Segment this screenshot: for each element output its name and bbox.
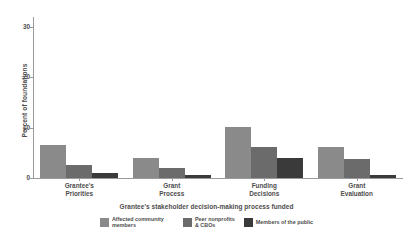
x-axis-group-label-line: Grantee's — [33, 182, 126, 190]
y-axis-tick-label: 0 — [14, 174, 30, 182]
x-axis-tick — [172, 178, 173, 181]
bar — [133, 158, 159, 178]
x-axis-group-label: GrantProcess — [126, 182, 219, 197]
y-axis-tick-label: 10 — [14, 124, 30, 132]
y-axis-tick-label-text: 30 — [14, 23, 30, 30]
bar — [344, 159, 370, 178]
bar — [318, 147, 344, 178]
y-axis-tick-label: 30 — [14, 23, 30, 31]
plot-area — [33, 17, 403, 178]
x-axis-tick — [357, 178, 358, 181]
legend-item[interactable]: Affected community members — [100, 217, 174, 228]
x-axis-group-label-line: Grant — [311, 182, 404, 190]
bar — [66, 165, 92, 178]
bar-chart: Percent of foundations 0102030 Grantee's… — [0, 0, 413, 238]
x-axis-tick — [79, 178, 80, 181]
y-axis-tick-label: 20 — [14, 73, 30, 81]
legend-item[interactable]: Peer nonprofits& CBOs — [183, 217, 235, 228]
x-axis-group-label: GrantEvaluation — [311, 182, 404, 197]
legend-swatch — [183, 218, 192, 227]
bar — [159, 168, 185, 178]
y-axis-title: Percent of foundations — [21, 21, 28, 181]
legend-label: Members of the public — [256, 220, 313, 226]
x-axis-group-label-line: Decisions — [218, 190, 311, 198]
chart-legend: Affected community membersPeer nonprofit… — [0, 217, 413, 228]
legend-label-line: Affected community members — [112, 217, 174, 228]
y-axis-tick-label-text: 10 — [14, 124, 30, 131]
x-axis-line — [33, 178, 403, 179]
x-axis-group-label-line: Grant — [126, 182, 219, 190]
legend-item[interactable]: Members of the public — [244, 218, 313, 227]
legend-label-line: & CBOs — [195, 223, 235, 229]
y-axis-tick-label-text: 0 — [14, 174, 30, 181]
legend-swatch — [100, 218, 109, 227]
bar — [277, 158, 303, 178]
x-axis-title: Grantee's stakeholder decision-making pr… — [0, 203, 413, 210]
bar — [225, 127, 251, 178]
x-axis-group-label-line: Funding — [218, 182, 311, 190]
x-axis-group-label-line: Process — [126, 190, 219, 198]
bar — [40, 145, 66, 178]
x-axis-group-label: FundingDecisions — [218, 182, 311, 197]
bar — [251, 147, 277, 178]
x-axis-tick — [264, 178, 265, 181]
legend-label-line: Members of the public — [256, 220, 313, 226]
legend-label: Peer nonprofits& CBOs — [195, 217, 235, 228]
legend-swatch — [244, 218, 253, 227]
x-axis-group-label-line: Priorities — [33, 190, 126, 198]
legend-label: Affected community members — [112, 217, 174, 228]
x-axis-group-label-line: Evaluation — [311, 190, 404, 198]
y-axis-tick-label-text: 20 — [14, 73, 30, 80]
x-axis-group-label: Grantee'sPriorities — [33, 182, 126, 197]
